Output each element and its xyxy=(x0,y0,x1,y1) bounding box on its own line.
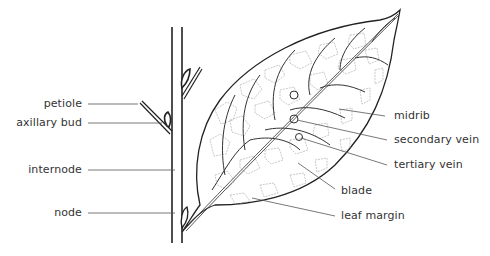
left-petiole xyxy=(140,101,172,134)
label-leaf-margin: leaf margin xyxy=(341,210,405,222)
label-petiole: petiole xyxy=(44,98,82,110)
label-internode: internode xyxy=(28,164,82,176)
upper-petiole xyxy=(181,67,202,99)
label-midrib: midrib xyxy=(394,110,430,122)
label-node: node xyxy=(54,207,82,219)
label-secondary-vein: secondary vein xyxy=(394,134,479,146)
label-blade: blade xyxy=(341,185,372,197)
label-axillary-bud: axillary bud xyxy=(16,117,82,129)
stem xyxy=(172,27,182,243)
label-tertiary-vein: tertiary vein xyxy=(394,159,463,171)
